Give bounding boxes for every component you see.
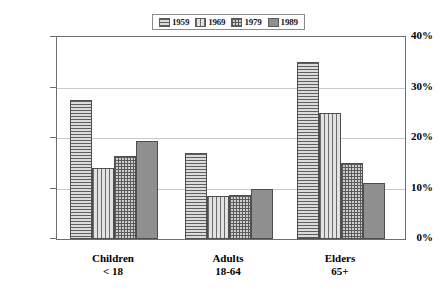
category-label-children: Children< 18 [68, 252, 158, 278]
bar-children-1979 [114, 156, 136, 239]
bar-adults-1969 [207, 196, 229, 239]
legend-swatch-1959 [159, 18, 170, 27]
legend-label-1959: 1959 [172, 18, 189, 27]
bar-elders-1979 [341, 163, 363, 239]
bar-children-1989 [136, 141, 158, 239]
bar-adults-1989 [251, 189, 273, 240]
bar-adults-1959 [185, 153, 207, 239]
bar-elders-1959 [297, 62, 319, 239]
category-label-primary: Adults [212, 252, 243, 264]
bar-children-1959 [70, 100, 92, 239]
legend-swatch-1989 [268, 18, 279, 27]
category-label-primary: Children [92, 252, 134, 264]
legend-item-1979: 1979 [231, 18, 261, 27]
category-label-elders: Elders65+ [295, 252, 385, 278]
legend-label-1979: 1979 [244, 18, 261, 27]
plot-area [56, 36, 406, 240]
category-label-adults: Adults18-64 [183, 252, 273, 278]
legend-label-1989: 1989 [281, 18, 298, 27]
legend-swatch-1979 [231, 18, 242, 27]
category-label-secondary: < 18 [68, 265, 158, 278]
legend-item-1969: 1969 [195, 18, 225, 27]
category-label-secondary: 18-64 [183, 265, 273, 278]
bar-chart: 1959 1969 1979 1989 0%10%20%30%40% Child… [0, 0, 441, 290]
legend-label-1969: 1969 [208, 18, 225, 27]
chart-legend: 1959 1969 1979 1989 [152, 14, 305, 30]
legend-item-1989: 1989 [268, 18, 298, 27]
bars-layer [57, 37, 405, 239]
category-label-secondary: 65+ [295, 265, 385, 278]
category-label-primary: Elders [325, 252, 356, 264]
legend-item-1959: 1959 [159, 18, 189, 27]
bar-children-1969 [92, 168, 114, 239]
bar-elders-1989 [363, 183, 385, 239]
bar-elders-1969 [319, 113, 341, 239]
legend-swatch-1969 [195, 18, 206, 27]
bar-adults-1979 [229, 195, 251, 239]
